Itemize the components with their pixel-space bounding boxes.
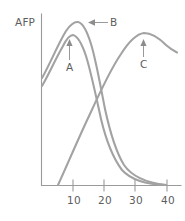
series-label-b: B bbox=[110, 17, 117, 28]
x-tick-label-40: 40 bbox=[160, 195, 176, 206]
chart-canvas bbox=[0, 0, 185, 221]
curve-series-b bbox=[42, 22, 166, 185]
x-tick-label-30: 30 bbox=[128, 195, 144, 206]
annotation-arrow-b bbox=[88, 19, 108, 25]
series-label-a: A bbox=[66, 62, 73, 73]
arrow-b-head bbox=[88, 19, 95, 25]
annotation-arrow-a bbox=[66, 39, 72, 60]
series-label-c: C bbox=[140, 59, 148, 70]
y-axis-title: AFP bbox=[15, 17, 35, 28]
data-curves bbox=[42, 22, 177, 185]
afp-curve-chart: AFP 10 20 30 40 B A C bbox=[0, 0, 185, 221]
x-tick-label-20: 20 bbox=[97, 195, 113, 206]
annotation-arrow-c bbox=[140, 39, 146, 57]
arrow-c-head bbox=[140, 39, 146, 46]
x-tick-label-10: 10 bbox=[66, 195, 82, 206]
